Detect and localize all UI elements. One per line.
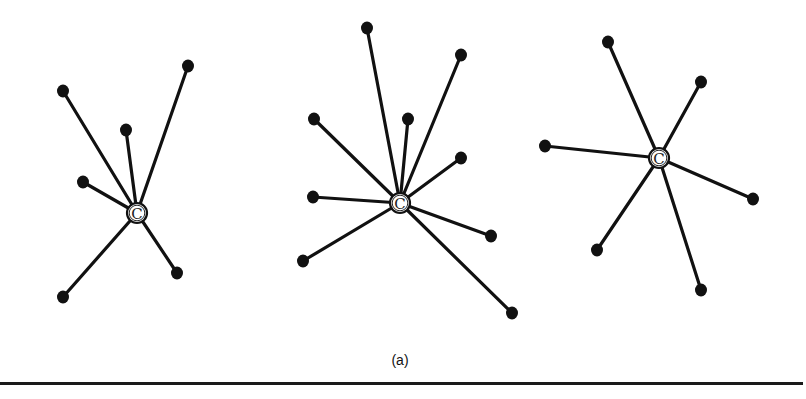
leaf-node: [307, 191, 319, 204]
leaf-node: [539, 140, 551, 153]
leaf-node: [747, 193, 759, 206]
edge: [545, 146, 659, 158]
leaf-node: [120, 124, 132, 137]
edge: [659, 158, 753, 199]
edge: [313, 197, 400, 203]
leaf-node: [455, 152, 467, 165]
leaf-node: [485, 230, 497, 243]
bottom-divider: [0, 382, 803, 385]
leaf-node: [506, 307, 518, 320]
leaf-node: [402, 113, 414, 126]
leaf-node: [77, 176, 89, 189]
leaf-node: [297, 255, 309, 268]
leaf-node: [308, 113, 320, 126]
leaf-node: [602, 36, 614, 49]
edge: [63, 213, 137, 297]
leaf-node: [171, 267, 183, 280]
edge: [597, 158, 659, 250]
hub-label: C: [394, 195, 405, 213]
edge: [137, 66, 188, 213]
hub-label: C: [653, 150, 664, 168]
edge: [400, 203, 491, 236]
edge: [608, 42, 659, 158]
leaf-node: [695, 76, 707, 89]
leaf-node: [182, 60, 194, 73]
edge: [400, 203, 512, 313]
edge: [659, 82, 701, 158]
edge: [303, 203, 400, 261]
leaf-node: [695, 284, 707, 297]
star-network-diagram: CCC: [0, 0, 806, 399]
star-1: C: [57, 60, 194, 304]
leaf-node: [57, 291, 69, 304]
leaf-node: [591, 244, 603, 257]
edge: [63, 91, 137, 213]
leaf-node: [57, 85, 69, 98]
star-2: C: [297, 22, 518, 320]
star-3: C: [539, 36, 759, 297]
leaf-node: [361, 22, 373, 35]
leaf-node: [455, 49, 467, 62]
edge: [659, 158, 701, 290]
hub-label: C: [131, 205, 142, 223]
figure-caption: (a): [380, 352, 420, 368]
